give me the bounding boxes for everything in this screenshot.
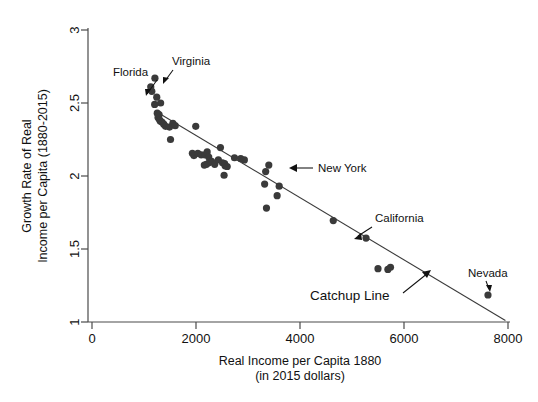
annotation-label-california: California — [375, 212, 424, 224]
scatter-point — [151, 101, 158, 108]
scatter-point — [261, 180, 268, 187]
scatter-point — [217, 144, 224, 151]
x-axis-subtitle: (in 2015 dollars) — [255, 369, 345, 383]
scatter-point — [374, 265, 381, 272]
scatter-point — [262, 168, 269, 175]
y-tick-label: 1 — [67, 318, 82, 325]
annotation-label-new-york: New York — [318, 162, 367, 174]
arrowhead-icon — [486, 285, 492, 292]
scatter-points-group — [147, 75, 491, 299]
arrowhead-icon — [289, 164, 297, 172]
scatter-point — [484, 291, 491, 298]
arrowhead-icon — [354, 233, 362, 240]
annotation-label-nevada: Nevada — [468, 267, 508, 279]
annotation-leader-catchup-line — [403, 273, 428, 293]
annotation-label-virginia: Virginia — [172, 55, 211, 67]
chart-canvas: 3 2.5 2 1.5 1 0 2000 4000 6000 8000 Real… — [0, 0, 538, 402]
scatter-point — [276, 183, 283, 190]
y-axis-title-line1: Growth Rate of Real — [20, 119, 34, 232]
annotation-virginia: Virginia — [163, 55, 211, 84]
scatter-point — [231, 154, 238, 161]
annotation-label-catchup-line: Catchup Line — [310, 288, 390, 303]
x-axis-title: Real Income per Capita 1880 — [219, 354, 382, 368]
y-tick-label: 2 — [67, 172, 82, 179]
annotation-nevada: Nevada — [468, 267, 508, 292]
scatter-point — [362, 234, 369, 241]
axes-group — [88, 28, 510, 322]
arrowhead-icon — [163, 77, 169, 84]
annotation-label-florida: Florida — [113, 66, 149, 78]
annotation-catchup-line: Catchup Line — [310, 270, 431, 303]
scatter-point — [157, 99, 164, 106]
x-tick-label: 8000 — [494, 331, 523, 346]
scatter-point — [151, 75, 158, 82]
y-tick-label: 1.5 — [67, 240, 82, 258]
y-axis-title-line2: Income per Capita (1880-2015) — [36, 89, 50, 263]
y-tick-label: 3 — [67, 26, 82, 33]
scatter-chart-figure: 3 2.5 2 1.5 1 0 2000 4000 6000 8000 Real… — [0, 0, 538, 402]
scatter-point — [241, 156, 248, 163]
scatter-point — [167, 136, 174, 143]
scatter-point — [172, 122, 179, 129]
scatter-point — [330, 217, 337, 224]
y-tick-label: 2.5 — [67, 94, 82, 112]
scatter-point — [274, 192, 281, 199]
x-tick-label: 0 — [88, 331, 95, 346]
scatter-point — [192, 123, 199, 130]
x-tick-label: 4000 — [286, 331, 315, 346]
scatter-point — [263, 205, 270, 212]
scatter-point — [265, 161, 272, 168]
annotation-new-york: New York — [289, 162, 367, 174]
scatter-point — [201, 161, 208, 168]
scatter-point — [220, 172, 227, 179]
scatter-point — [224, 163, 231, 170]
scatter-point — [387, 264, 394, 271]
x-tick-label: 6000 — [390, 331, 419, 346]
x-axis-ticks: 0 2000 4000 6000 8000 — [88, 322, 522, 346]
y-axis-ticks: 3 2.5 2 1.5 1 — [67, 26, 89, 325]
x-tick-label: 2000 — [182, 331, 211, 346]
